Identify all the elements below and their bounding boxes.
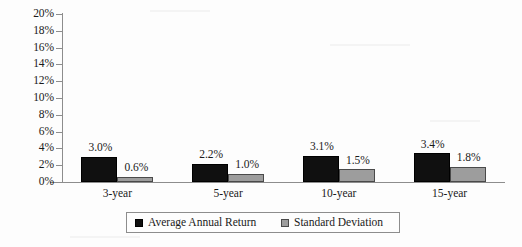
plot-area: 3.0%0.6%2.2%1.0%3.1%1.5%3.4%1.8%: [62, 14, 505, 182]
x-axis-category-label: 3-year: [62, 188, 173, 200]
bar-standard-deviation: [228, 174, 264, 182]
bar-group: 2.2%1.0%: [173, 14, 284, 182]
y-axis-tick-label: 2%: [14, 159, 54, 171]
bar-value-label: 3.1%: [300, 141, 344, 153]
y-axis-tick-label: 16%: [14, 42, 54, 54]
y-axis-tick-label: 4%: [14, 142, 54, 154]
bar-value-label: 1.0%: [225, 159, 269, 171]
legend-item-average-annual-return: Average Annual Return: [135, 213, 256, 232]
bar-group: 3.1%1.5%: [284, 14, 395, 182]
legend-item-standard-deviation: Standard Deviation: [281, 213, 383, 232]
legend-item-label: Average Annual Return: [148, 217, 256, 229]
y-axis-tick-label: 8%: [14, 109, 54, 121]
legend-swatch-icon: [135, 219, 143, 227]
x-axis-category-label: 15-year: [394, 188, 505, 200]
bar-standard-deviation: [339, 169, 375, 182]
y-axis-tick: [56, 182, 63, 183]
bar-average-annual-return: [192, 164, 228, 182]
bar-value-label: 0.6%: [114, 162, 158, 174]
bar-average-annual-return: [414, 153, 450, 182]
bar-value-label: 3.4%: [411, 139, 455, 151]
bar-value-label: 1.5%: [336, 155, 380, 167]
legend-item-label: Standard Deviation: [294, 217, 383, 229]
y-axis-tick-label: 12%: [14, 75, 54, 87]
y-axis-tick-label: 0%: [14, 176, 54, 188]
bar-group: 3.0%0.6%: [62, 14, 173, 182]
bar-group: 3.4%1.8%: [394, 14, 505, 182]
x-axis-category-label: 5-year: [173, 188, 284, 200]
bar-standard-deviation: [117, 177, 153, 182]
bar-chart: 0%2%4%6%8%10%12%14%16%18%20% 3.0%0.6%2.2…: [0, 0, 522, 247]
bar-average-annual-return: [303, 156, 339, 182]
x-axis-category-label: 10-year: [284, 188, 395, 200]
bar-average-annual-return: [81, 157, 117, 182]
scan-artifact: [150, 10, 210, 12]
y-axis-tick-label: 6%: [14, 126, 54, 138]
x-axis-line: [50, 182, 505, 183]
legend-swatch-icon: [281, 219, 289, 227]
y-axis-tick-label: 18%: [14, 25, 54, 37]
bar-value-label: 3.0%: [78, 142, 122, 154]
bar-standard-deviation: [450, 167, 486, 182]
bar-value-label: 1.8%: [447, 152, 491, 164]
y-axis-tick-label: 10%: [14, 92, 54, 104]
chart-legend: Average Annual Return Standard Deviation: [126, 212, 400, 233]
y-axis-tick-label: 20%: [14, 8, 54, 20]
y-axis-tick-label: 14%: [14, 58, 54, 70]
scan-artifact: [70, 236, 140, 238]
